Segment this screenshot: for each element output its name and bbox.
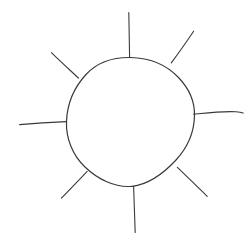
- sun-sketch: [0, 0, 250, 248]
- canvas-background: [0, 0, 250, 248]
- drawing-canvas: [0, 0, 250, 248]
